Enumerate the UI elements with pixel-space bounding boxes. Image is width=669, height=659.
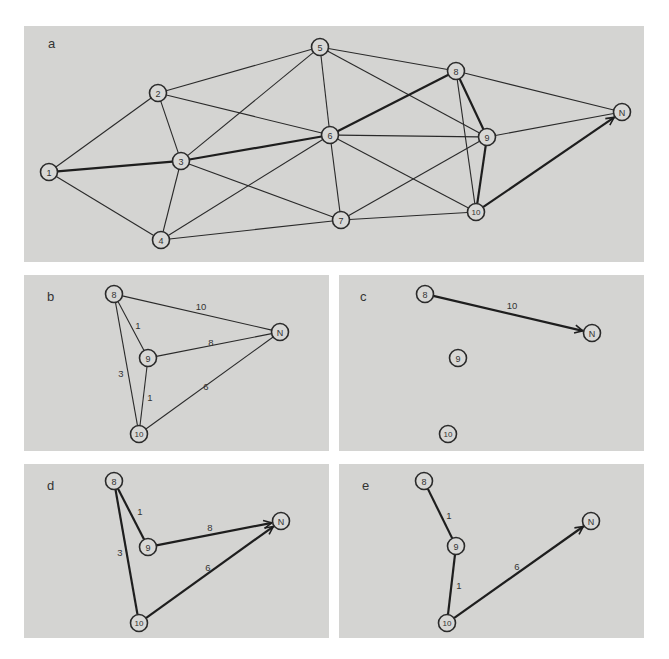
node-label: 2 (155, 89, 160, 99)
edge-weight-label: 3 (118, 368, 123, 379)
node-label: 10 (444, 430, 453, 439)
node-5: 5 (312, 39, 329, 56)
node-label: N (589, 329, 596, 339)
node-label: 3 (178, 157, 183, 167)
edge-weight-label: 1 (456, 580, 461, 591)
node-N: N (583, 513, 600, 530)
edge-weight-label: 1 (446, 510, 451, 521)
node-3: 3 (173, 153, 190, 170)
node-10: 10 (131, 426, 148, 443)
node-1: 1 (41, 164, 58, 181)
edge-weight-label: 1 (147, 392, 152, 403)
node-label: 8 (422, 290, 427, 300)
edge-weight-label: 3 (117, 547, 122, 558)
node-10: 10 (468, 204, 485, 221)
node-label: N (619, 108, 626, 118)
node-8: 8 (106, 473, 123, 490)
panel-a: a12345678910N (24, 26, 644, 262)
node-label: 9 (455, 354, 460, 364)
node-2: 2 (150, 85, 167, 102)
node-8: 8 (416, 473, 433, 490)
node-9: 9 (450, 350, 467, 367)
edge-weight-label: 8 (208, 337, 213, 348)
edge-weight-label: 10 (196, 301, 207, 312)
node-label: N (588, 517, 595, 527)
node-9: 9 (140, 539, 157, 556)
node-7: 7 (333, 212, 350, 229)
panel-background (339, 275, 644, 451)
node-label: 9 (145, 543, 150, 553)
node-label: 10 (443, 619, 452, 628)
panel-c: c108910N (339, 275, 644, 451)
panel-letter: c (360, 289, 367, 304)
node-10: 10 (440, 426, 457, 443)
node-10: 10 (131, 615, 148, 632)
node-label: 4 (158, 236, 163, 246)
panel-b: b10183168910N (24, 275, 329, 451)
node-8: 8 (448, 63, 465, 80)
panel-background (339, 464, 644, 638)
edge-weight-label: 1 (135, 320, 140, 331)
node-label: 8 (111, 477, 116, 487)
node-label: 7 (338, 216, 343, 226)
panel-letter: d (47, 478, 54, 493)
panel-background (24, 275, 329, 451)
node-label: 9 (453, 542, 458, 552)
node-label: N (277, 328, 284, 338)
node-9: 9 (140, 350, 157, 367)
node-label: N (278, 517, 285, 527)
node-N: N (614, 104, 631, 121)
node-label: 8 (453, 67, 458, 77)
node-9: 9 (479, 129, 496, 146)
edge-weight-label: 1 (137, 506, 142, 517)
edge-weight-label: 6 (205, 562, 210, 573)
node-10: 10 (439, 615, 456, 632)
panel-d: d18368910N (24, 464, 329, 638)
panel-background (24, 464, 329, 638)
edge-weight-label: 6 (203, 381, 208, 392)
panel-e: e1168910N (339, 464, 644, 638)
panel-letter: b (47, 289, 54, 304)
node-label: 10 (472, 208, 481, 217)
node-label: 1 (46, 168, 51, 178)
network-diagram-figure: a12345678910Nb10183168910Nc108910Nd18368… (0, 0, 669, 659)
node-label: 6 (327, 131, 332, 141)
node-N: N (584, 325, 601, 342)
edge-weight-label: 6 (514, 561, 519, 572)
panel-background (24, 26, 644, 262)
panel-letter: e (362, 478, 369, 493)
node-label: 10 (135, 619, 144, 628)
node-8: 8 (417, 286, 434, 303)
node-8: 8 (106, 286, 123, 303)
node-9: 9 (448, 538, 465, 555)
node-label: 9 (484, 133, 489, 143)
node-4: 4 (153, 232, 170, 249)
edge-weight-label: 10 (507, 300, 518, 311)
node-label: 5 (317, 43, 322, 53)
node-6: 6 (322, 127, 339, 144)
node-N: N (273, 513, 290, 530)
node-label: 8 (421, 477, 426, 487)
node-label: 10 (135, 430, 144, 439)
panel-letter: a (48, 36, 56, 51)
edge-weight-label: 8 (207, 522, 212, 533)
node-label: 8 (111, 290, 116, 300)
node-label: 9 (145, 354, 150, 364)
node-N: N (272, 324, 289, 341)
